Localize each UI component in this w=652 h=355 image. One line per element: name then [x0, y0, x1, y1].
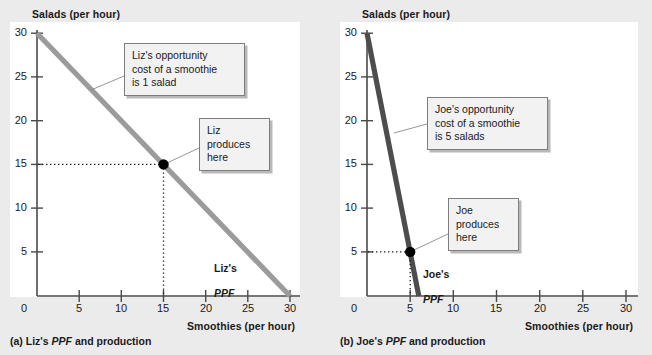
- panel-a-caption-suffix: and production: [72, 335, 151, 347]
- leader-line-opportunity-a: [91, 76, 124, 90]
- panel-b-caption: (b) Joe's PPF and production: [340, 335, 485, 347]
- panel-a-caption: (a) Liz's PPF and production: [10, 335, 151, 347]
- x-tick-label-b-30: 30: [614, 302, 638, 314]
- panel-b-joe: Salads (per hour): [326, 0, 652, 355]
- y-tick-label-a-5: 5: [2, 245, 27, 257]
- y-tick-label-a-15: 15: [2, 157, 27, 169]
- liz-produces-here-callout: Liz produces here: [199, 118, 270, 171]
- joe-ppf-curve-label: Joe's PPF: [423, 255, 449, 305]
- production-point-liz: [158, 159, 168, 169]
- x-tick-label-a-15: 15: [151, 302, 175, 314]
- panel-b-caption-italic: PPF: [386, 335, 406, 347]
- panel-b-caption-suffix: and production: [406, 335, 485, 347]
- x-tick-label-b-15: 15: [484, 302, 508, 314]
- y-tick-label-b-5: 5: [332, 245, 357, 257]
- x-tick-label-a-25: 25: [236, 302, 260, 314]
- x-tick-label-a-30: 30: [278, 302, 302, 314]
- panel-b-caption-prefix: (b) Joe's: [340, 335, 386, 347]
- y-tick-label-b-15: 15: [332, 157, 357, 169]
- liz-ppf-curve-label: Liz's PPF: [214, 249, 237, 299]
- leader-line-produces-a: [167, 148, 199, 163]
- x-axis-title-a: Smoothies (per hour): [187, 320, 295, 332]
- production-point-joe: [405, 247, 415, 257]
- joe-produces-here-callout: Joe produces here: [448, 198, 519, 251]
- y-tick-label-a-0: 0: [2, 302, 27, 314]
- liz-opportunity-cost-callout: Liz's opportunity cost of a smoothie is …: [124, 43, 245, 96]
- leader-line-opportunity-b: [394, 124, 427, 133]
- joe-ppf-label-line1: Joe's: [423, 268, 449, 280]
- y-tick-label-b-0: 0: [332, 302, 357, 314]
- x-tick-label-b-25: 25: [571, 302, 595, 314]
- leader-line-produces-b: [414, 234, 448, 250]
- y-tick-label-a-25: 25: [2, 70, 27, 82]
- panel-a-caption-italic: PPF: [52, 335, 72, 347]
- y-tick-label-a-20: 20: [2, 114, 27, 126]
- joe-ppf-label-line2: PPF: [423, 293, 443, 305]
- y-tick-label-a-10: 10: [2, 201, 27, 213]
- x-axis-title-b: Smoothies (per hour): [525, 320, 633, 332]
- x-tick-label-a-20: 20: [194, 302, 218, 314]
- x-tick-label-a-10: 10: [109, 302, 133, 314]
- panel-a-liz: Salads (per hour): [0, 0, 326, 355]
- y-tick-label-b-20: 20: [332, 114, 357, 126]
- ppf-figure: Salads (per hour): [0, 0, 652, 355]
- liz-ppf-label-line2: PPF: [214, 287, 234, 299]
- y-tick-label-b-10: 10: [332, 201, 357, 213]
- joe-opportunity-cost-callout: Joe's opportunity cost of a smoothie is …: [427, 97, 548, 150]
- y-tick-label-b-25: 25: [332, 70, 357, 82]
- x-tick-label-b-20: 20: [528, 302, 552, 314]
- y-tick-label-b-30: 30: [332, 26, 357, 38]
- panel-a-caption-prefix: (a) Liz's: [10, 335, 52, 347]
- x-tick-label-b-5: 5: [398, 302, 422, 314]
- y-tick-label-a-30: 30: [2, 26, 27, 38]
- liz-ppf-label-line1: Liz's: [214, 262, 237, 274]
- x-tick-label-a-5: 5: [67, 302, 91, 314]
